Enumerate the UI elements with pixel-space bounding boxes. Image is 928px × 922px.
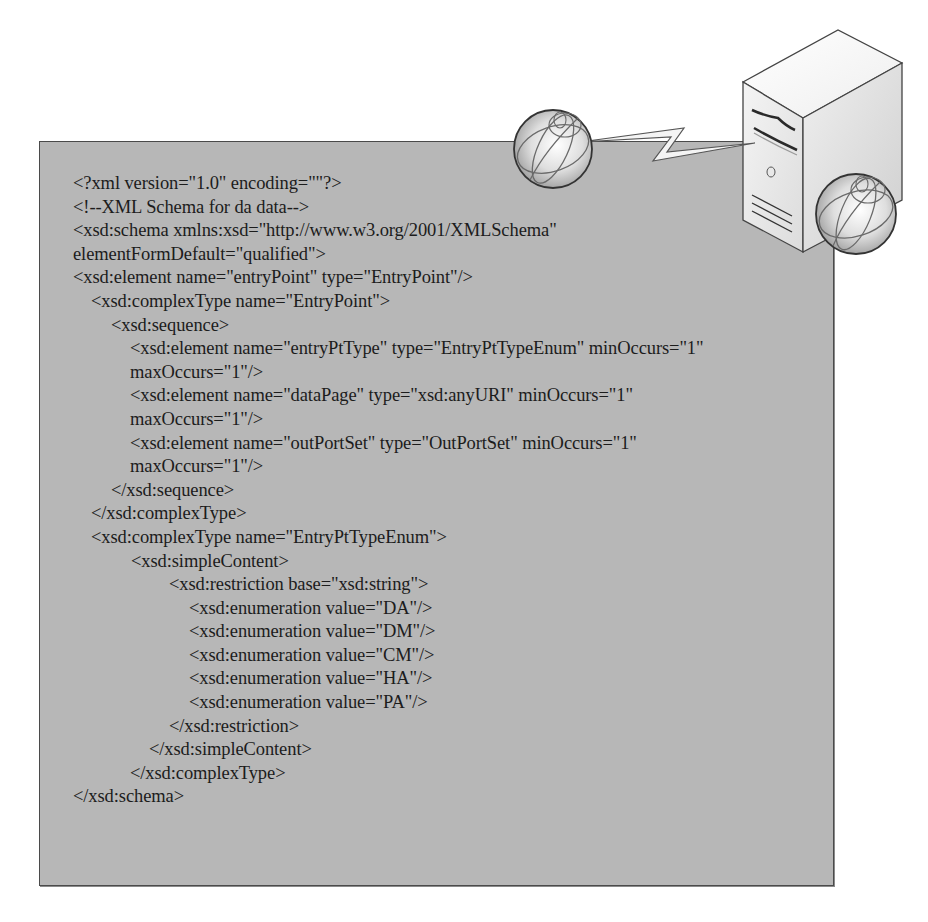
code-line: <xsd:element name="outPortSet" type="Out…	[40, 432, 703, 456]
code-line: maxOccurs="1"/>	[40, 408, 703, 432]
xml-schema-panel: <?xml version="1.0" encoding=""?> <!--XM…	[39, 141, 834, 886]
code-line: </xsd:simpleContent>	[40, 738, 703, 762]
code-line: <xsd:restriction base="xsd:string">	[40, 573, 703, 597]
code-line: <xsd:enumeration value="PA"/>	[40, 691, 703, 715]
code-line: </xsd:sequence>	[40, 479, 703, 503]
code-line: <xsd:complexType name="EntryPtTypeEnum">	[40, 526, 703, 550]
code-line: </xsd:restriction>	[40, 715, 703, 739]
code-line: <xsd:sequence>	[40, 314, 703, 338]
code-line: maxOccurs="1"/>	[40, 455, 703, 479]
code-line: <xsd:complexType name="EntryPoint">	[40, 290, 703, 314]
code-line: <xsd:enumeration value="DM"/>	[40, 620, 703, 644]
code-line: </xsd:schema>	[40, 785, 703, 809]
code-line: </xsd:complexType>	[40, 502, 703, 526]
code-line: elementFormDefault="qualified">	[40, 243, 703, 267]
code-line: </xsd:complexType>	[40, 762, 703, 786]
code-line: <xsd:element name="entryPoint" type="Ent…	[40, 266, 703, 290]
code-listing: <?xml version="1.0" encoding=""?> <!--XM…	[40, 172, 703, 809]
code-line: <!--XML Schema for da data-->	[40, 196, 703, 220]
code-line: <xsd:enumeration value="DA"/>	[40, 597, 703, 621]
code-line: <xsd:element name="dataPage" type="xsd:a…	[40, 384, 703, 408]
code-line: <xsd:simpleContent>	[40, 550, 703, 574]
code-line: <xsd:schema xmlns:xsd="http://www.w3.org…	[40, 219, 703, 243]
code-line: <xsd:enumeration value="CM"/>	[40, 644, 703, 668]
code-line: <xsd:element name="entryPtType" type="En…	[40, 337, 703, 361]
code-line: <xsd:enumeration value="HA"/>	[40, 667, 703, 691]
code-line: maxOccurs="1"/>	[40, 361, 703, 385]
code-line: <?xml version="1.0" encoding=""?>	[40, 172, 703, 196]
